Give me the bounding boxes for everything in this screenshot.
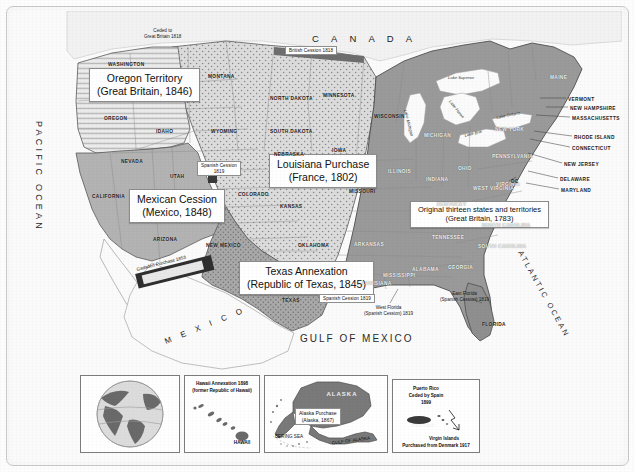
state-label-washington: WASHINGTON	[108, 62, 144, 67]
label-ceded-to-great-britain: Ceded to Great Britain 1818	[144, 28, 181, 40]
state-label-arizona: ARIZONA	[153, 237, 177, 242]
callout-louisiana-line2: (France, 1802)	[277, 171, 369, 184]
hawaii-inset-line2: (former Republic of Hawaii)	[185, 388, 259, 394]
inset-globe	[80, 375, 180, 453]
state-label-south-dakota: SOUTH DAKOTA	[270, 129, 312, 134]
state-label-minnesota: MINNESOTA	[323, 93, 355, 98]
callout-louisiana-line1: Louisiana Purchase	[277, 158, 369, 170]
callout-texas-annexation: Texas Annexation (Republic of Texas, 184…	[239, 261, 374, 295]
inset-hawaii: Hawaii Annexation 1898 (former Republic …	[184, 375, 260, 453]
state-label-utah: UTAH	[170, 174, 184, 179]
state-label-connecticut: CONNECTICUT	[572, 146, 611, 151]
alaska-region-label: ALASKA	[317, 390, 367, 398]
virgin-islands-line1: Virgin Islands	[409, 436, 479, 442]
state-label-arkansas: ARKANSAS	[354, 242, 384, 247]
state-label-mississippi: MISSISSIPPI	[383, 273, 415, 278]
state-label-pennsylvania: PENNSYLVANIA	[492, 154, 533, 159]
hawaii-island-label: HAWAII	[227, 440, 257, 446]
state-label-iowa: IOWA	[332, 148, 346, 153]
map-canvas: C A N A D A M E X I C O PACIFIC OCEAN AT…	[12, 11, 622, 461]
inset-alaska: ALASKA Alaska Purchase (Alaska, 1867) BE…	[264, 375, 388, 453]
inset-caribbean: Puerto Rico Ceded by Spain 1899 PUERTO R…	[392, 379, 480, 453]
state-label-michigan: MICHIGAN	[424, 133, 451, 138]
state-label-new-mexico: NEW MEXICO	[206, 243, 241, 248]
state-label-idaho: IDAHO	[156, 129, 173, 134]
map-page: C A N A D A M E X I C O PACIFIC OCEAN AT…	[0, 0, 635, 472]
state-label-nevada: NEVADA	[121, 159, 143, 164]
state-label-new-jersey: NEW JERSEY	[564, 162, 599, 167]
alaska-purchase-callout: Alaska Purchase (Alaska, 1867)	[295, 408, 341, 425]
state-label-new-york: NEW YORK	[495, 127, 524, 132]
state-label-south-carolina: SOUTH CAROLINA	[478, 244, 526, 249]
alaska-callout-line1: Alaska Purchase	[299, 410, 337, 416]
label-pacific-ocean: PACIFIC OCEAN	[34, 121, 44, 232]
state-label-missouri: MISSOURI	[349, 189, 376, 194]
callout-mexican-line2: (Mexico, 1848)	[137, 206, 217, 219]
callout-mexican-cession: Mexican Cession (Mexico, 1848)	[129, 189, 225, 223]
state-label-wyoming: WYOMING	[211, 129, 237, 134]
callout-oregon-territory: Oregon Territory (Great Britain, 1846)	[89, 68, 200, 102]
bering-sea-label: BERING SEA	[267, 434, 311, 440]
state-label-montana: MONTANA	[208, 74, 235, 79]
label-british-cession-1818: British Cession 1818	[285, 46, 337, 55]
state-label-georgia: GEORGIA	[448, 265, 473, 270]
state-label-new-hampshire: NEW HAMPSHIRE	[570, 106, 616, 111]
state-label-nebraska: NEBRASKA	[274, 152, 304, 157]
state-label-alabama: ALABAMA	[412, 267, 439, 272]
state-label-delaware: DELAWARE	[560, 177, 590, 182]
callout-louisiana-purchase: Louisiana Purchase (France, 1802)	[269, 154, 377, 188]
callout-oregon-line2: (Great Britain, 1846)	[97, 85, 192, 98]
state-label-maine: MAINE	[550, 75, 567, 80]
state-label-vermont: VERMONT	[568, 97, 594, 102]
state-label-oklahoma: OKLAHOMA	[298, 243, 329, 248]
state-label-kansas: KANSAS	[280, 204, 302, 209]
callout-mexican-line1: Mexican Cession	[137, 193, 217, 205]
state-label-wisconsin: WISCONSIN	[374, 114, 405, 119]
state-label-north-dakota: NORTH DAKOTA	[270, 96, 313, 101]
state-label-florida: FLORIDA	[482, 322, 506, 327]
state-label-california: CALIFORNIA	[92, 194, 125, 199]
virgin-islands-line2: Purchased from Denmark 1917	[393, 443, 479, 449]
callout-texas-line1: Texas Annexation	[265, 265, 347, 277]
alaska-callout-line2: (Alaska, 1867)	[302, 417, 334, 423]
state-label-maryland: MARYLAND	[561, 188, 591, 193]
state-label-colorado: COLORADO	[238, 192, 269, 197]
puerto-rico-island-label: PUERTO RICO	[401, 424, 445, 429]
globe-icon	[81, 376, 179, 452]
state-label-illinois: ILLINOIS	[388, 169, 411, 174]
state-label-texas: TEXAS	[282, 298, 300, 303]
label-canada: C A N A D A	[312, 33, 417, 44]
callout-oregon-line1: Oregon Territory	[107, 72, 183, 84]
state-label-massachusetts: MASSACHUSETTS	[572, 116, 620, 121]
label-west-florida: West Florida (Spanish Cession) 1819	[364, 305, 413, 317]
label-lake-superior: Lake Superior	[448, 75, 474, 80]
state-label-rhode-island: RHODE ISLAND	[574, 135, 615, 140]
state-label-indiana: INDIANA	[426, 177, 448, 182]
label-spanish-cession-west: Spanish Cession 1819	[197, 161, 241, 176]
puerto-rico-line1: Puerto Rico	[393, 386, 459, 392]
label-gulf-of-mexico: GULF OF MEXICO	[300, 333, 414, 344]
state-label-oregon: OREGON	[104, 116, 127, 121]
puerto-rico-line3: 1899	[393, 400, 459, 406]
state-label-north-carolina: NORTH CAROLINA	[482, 223, 531, 228]
label-spanish-cession-texas: Spanish Cession 1819	[319, 294, 375, 303]
state-label-louisiana: LOUISIANA	[362, 281, 392, 286]
state-label-kentucky: KENTUCKY	[437, 202, 466, 207]
state-label-dc: DC	[511, 179, 519, 184]
state-label-tennessee: TENNESSEE	[432, 235, 464, 240]
state-label-ohio: OHIO	[458, 166, 472, 171]
hawaii-inset-line1: Hawaii Annexation 1898	[185, 381, 259, 387]
puerto-rico-line2: Ceded by Spain	[393, 393, 459, 399]
label-east-florida: East Florida (Spanish Cession) 1819	[440, 291, 489, 303]
callout-texas-line2: (Republic of Texas, 1845)	[247, 278, 366, 291]
